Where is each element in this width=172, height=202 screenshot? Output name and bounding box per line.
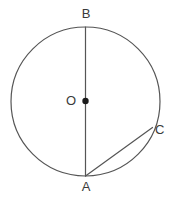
circle-geometry-diagram: B O C A bbox=[0, 0, 172, 202]
vertex-label-o: O bbox=[66, 94, 76, 107]
chord-line-ac bbox=[86, 128, 153, 177]
vertex-label-a: A bbox=[0, 180, 172, 193]
center-point-dot bbox=[82, 98, 88, 104]
geometry-canvas bbox=[0, 0, 172, 202]
vertex-label-c: C bbox=[155, 123, 164, 136]
vertex-label-b: B bbox=[0, 7, 172, 20]
